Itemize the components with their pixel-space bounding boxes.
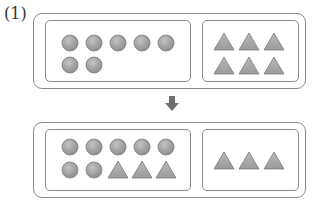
circle-icon	[134, 139, 150, 155]
shapes-layer	[0, 0, 314, 202]
triangle-icon	[214, 152, 234, 169]
triangle-icon	[264, 33, 284, 50]
circle-icon	[62, 57, 78, 73]
triangle-icon	[108, 161, 128, 178]
circle-icon	[158, 35, 174, 51]
circle-icon	[158, 139, 174, 155]
circle-icon	[62, 139, 78, 155]
triangle-icon	[264, 57, 284, 74]
circle-icon	[62, 162, 78, 178]
triangle-icon	[239, 57, 259, 74]
triangle-icon	[214, 57, 234, 74]
circle-icon	[86, 57, 102, 73]
circle-icon	[86, 139, 102, 155]
after-right-triangles	[214, 152, 284, 169]
circle-icon	[110, 139, 126, 155]
circle-icon	[86, 35, 102, 51]
triangle-icon	[264, 152, 284, 169]
triangle-icon	[214, 33, 234, 50]
before-triangles	[214, 33, 284, 74]
circle-icon	[86, 162, 102, 178]
before-circles	[62, 35, 174, 73]
triangle-icon	[132, 161, 152, 178]
triangle-icon	[239, 152, 259, 169]
after-left-triangles	[108, 161, 176, 178]
circle-icon	[134, 35, 150, 51]
triangle-icon	[239, 33, 259, 50]
circle-icon	[110, 35, 126, 51]
triangle-icon	[156, 161, 176, 178]
circle-icon	[62, 35, 78, 51]
